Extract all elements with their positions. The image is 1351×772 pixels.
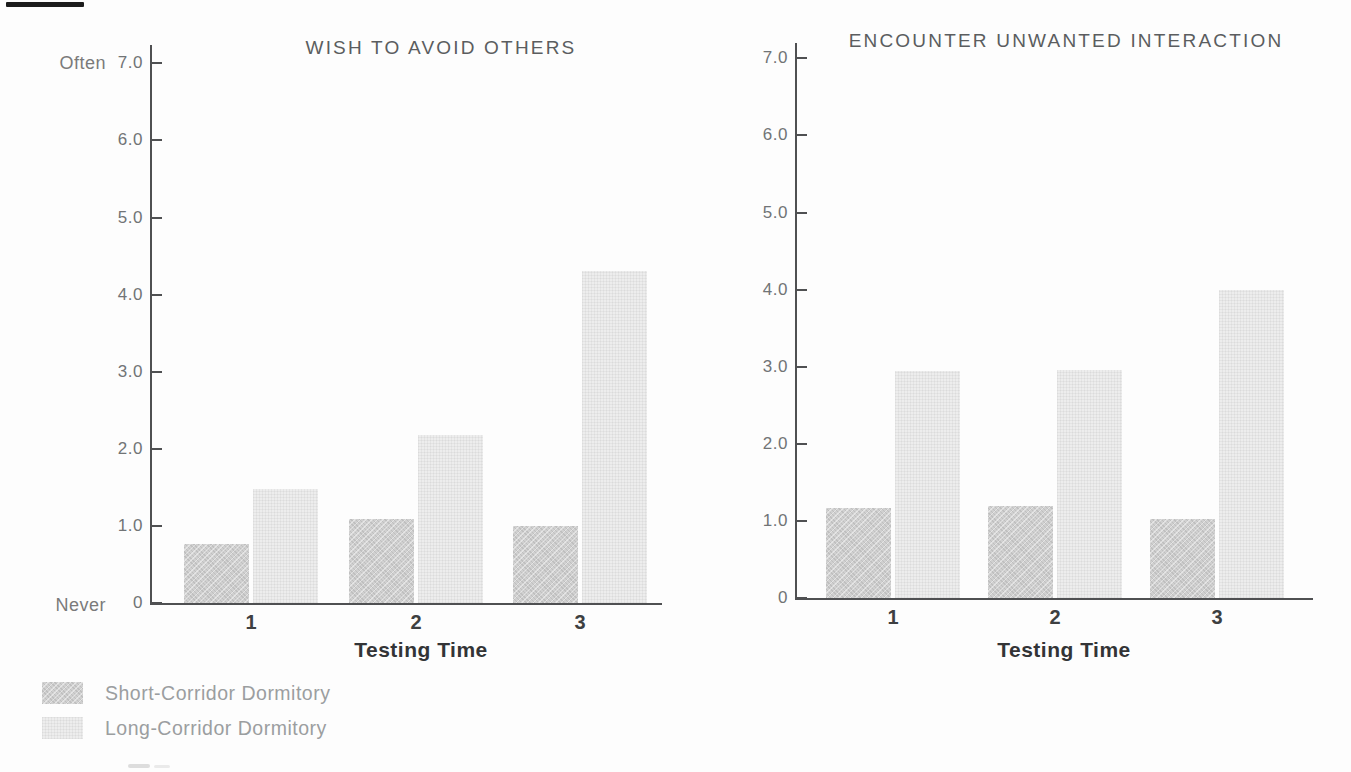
y-tick-label: 6.0 [728,124,788,146]
y-tick [151,62,162,64]
y-tick [151,448,162,450]
x-axis-label: Testing Time [997,638,1131,662]
legend-label-short-corridor: Short-Corridor Dormitory [105,681,330,705]
y-tick [796,289,807,291]
bar-short-corridor-t3 [513,526,578,603]
y-tick-label: 7.0 [728,47,788,69]
y-tick-label: 2.0 [83,438,143,460]
y-tick [796,134,807,136]
y-tick [796,520,807,522]
bar-long-corridor-t1 [895,371,960,598]
bar-long-corridor-t3 [1219,290,1284,598]
x-tick-label: 3 [558,611,602,634]
x-axis [150,603,662,605]
y-tick [151,525,162,527]
y-tick-label: 6.0 [83,129,143,151]
plot-area: 01.02.03.04.05.06.07.0123 [0,0,1351,772]
y-tick [796,212,807,214]
bar-long-corridor-t2 [418,435,483,603]
y-axis-top-label: Often [26,53,106,74]
legend-swatch-short-corridor [42,682,83,704]
y-tick [796,443,807,445]
y-tick [796,366,807,368]
bar-short-corridor-t1 [826,508,891,598]
bar-short-corridor-t2 [988,506,1053,598]
x-tick-label: 1 [229,611,273,634]
y-tick [796,57,807,59]
y-tick-label: 3.0 [728,356,788,378]
bar-long-corridor-t2 [1057,370,1122,598]
cutoff-caption-fragment [154,765,170,768]
bar-short-corridor-t1 [184,544,249,603]
plot-area: 01.02.03.04.05.06.07.0123 [0,0,1351,772]
bar-short-corridor-t3 [1150,519,1215,598]
x-tick-label: 1 [871,606,915,629]
y-axis [150,45,152,605]
legend-label-long-corridor: Long-Corridor Dormitory [105,716,327,740]
legend-swatch-long-corridor [42,717,83,739]
bar-long-corridor-t3 [582,271,647,603]
scanned-figure: WISH TO AVOID OTHERS Often Never Testing… [0,0,1351,772]
y-tick [151,602,162,604]
y-tick-label: 3.0 [83,361,143,383]
y-tick-label: 4.0 [83,284,143,306]
x-tick-label: 2 [1033,606,1077,629]
scan-artifact-icon [6,2,84,7]
x-axis [795,598,1313,600]
y-tick [151,139,162,141]
y-tick-label: 1.0 [83,515,143,537]
chart-title: WISH TO AVOID OTHERS [306,37,577,59]
y-tick-label: 1.0 [728,510,788,532]
bar-long-corridor-t1 [253,489,318,603]
y-tick [151,294,162,296]
x-axis-label: Testing Time [354,638,488,662]
chart-title: ENCOUNTER UNWANTED INTERACTION [849,30,1284,52]
x-tick-label: 2 [394,611,438,634]
y-axis-bottom-label: Never [26,595,106,616]
bar-short-corridor-t2 [349,519,414,603]
y-axis [795,43,797,600]
y-tick-label: 5.0 [83,207,143,229]
y-tick [151,371,162,373]
x-tick-label: 3 [1195,606,1239,629]
y-tick [151,217,162,219]
y-tick-label: 5.0 [728,202,788,224]
y-tick-label: 0 [728,587,788,609]
y-tick [796,597,807,599]
cutoff-caption-fragment [128,764,150,768]
y-tick-label: 2.0 [728,433,788,455]
y-tick-label: 4.0 [728,279,788,301]
